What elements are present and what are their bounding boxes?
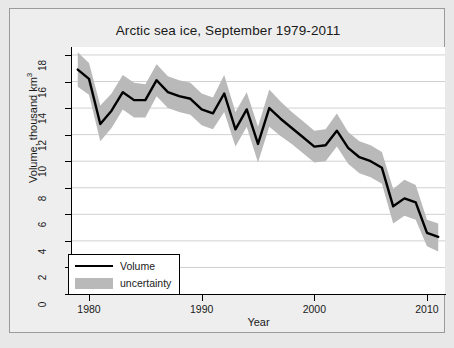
legend-label-volume: Volume [120,261,155,272]
y-tick-mark [65,241,71,242]
y-tick-mark [65,188,71,189]
legend-item-uncertainty: uncertainty [75,275,171,291]
legend-label-uncertainty: uncertainty [120,278,171,289]
x-tick-mark [427,295,428,301]
legend-line-swatch-icon [75,265,113,268]
y-axis-title-exponent: 3 [25,73,34,77]
legend-item-volume: Volume [75,258,155,274]
legend-band-swatch-icon [75,278,113,289]
y-tick-label: 6 [37,213,48,237]
y-tick-mark [65,82,71,83]
y-tick-mark [65,214,71,215]
chart-title: Arctic sea ice, September 1979-2011 [10,23,446,38]
y-tick-label: 0 [37,293,48,317]
y-axis-title: Volume, thousand km3 [25,58,39,198]
x-tick-label: 2000 [294,303,334,315]
y-axis-title-text: Volume, thousand km [27,77,39,183]
chart-legend: Volume uncertainty [68,254,180,295]
x-tick-mark [89,295,90,301]
x-tick-label: 1990 [182,303,222,315]
x-tick-mark [202,295,203,301]
uncertainty-band-series [78,52,438,251]
y-tick-mark [65,108,71,109]
chart-panel: Arctic sea ice, September 1979-2011 0246… [9,8,445,333]
x-tick-label: 1980 [69,303,109,315]
x-tick-mark [314,295,315,301]
chart-figure: Arctic sea ice, September 1979-2011 0246… [0,0,454,348]
x-axis-title: Year [71,316,446,328]
x-tick-label: 2010 [407,303,447,315]
y-tick-mark [65,161,71,162]
y-tick-label: 4 [37,239,48,263]
y-tick-mark [65,135,71,136]
y-tick-mark [65,55,71,56]
y-tick-label: 2 [37,266,48,290]
